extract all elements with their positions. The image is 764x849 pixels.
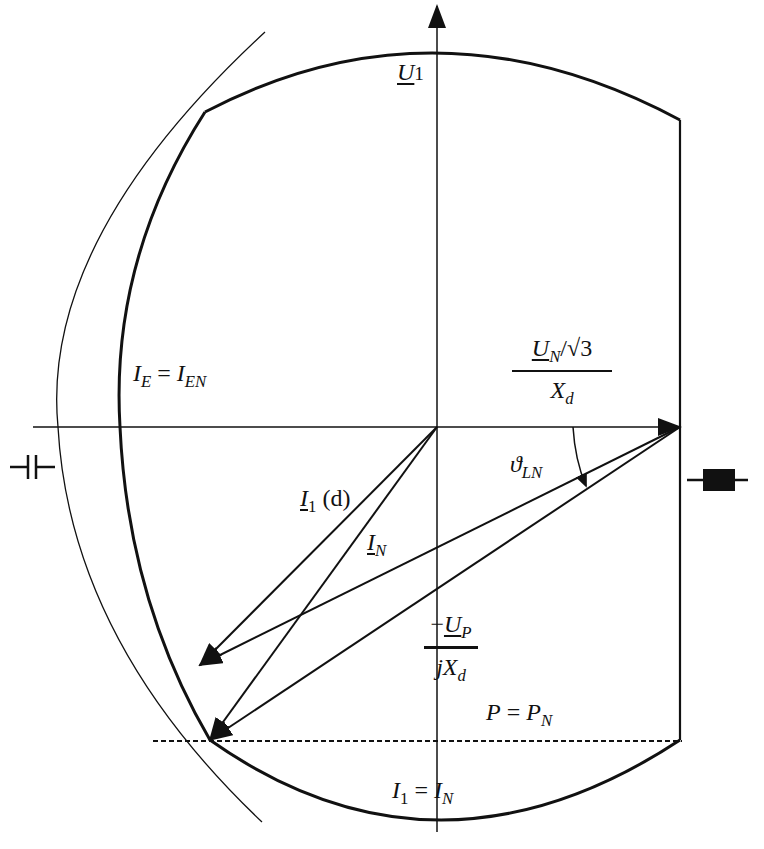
xd-denominator: Xd — [512, 372, 612, 408]
ien-sub: EN — [185, 372, 206, 391]
un-sub: N — [549, 347, 560, 366]
un-numerator: UN/√3 — [512, 336, 612, 372]
i1d-label: I1 (d) — [300, 486, 350, 516]
up-sub: P — [461, 623, 471, 642]
pn-sub: N — [541, 711, 552, 730]
xd-sub: d — [565, 389, 573, 408]
up-prefix: − — [430, 611, 444, 637]
excitation-limit-arc — [119, 112, 210, 740]
up-numerator: −UP — [424, 612, 478, 649]
rated-current-label: I1 = IN — [392, 778, 453, 808]
excitation-current-label: IE = IEN — [133, 361, 206, 391]
i1d-rest: (d) — [316, 485, 350, 511]
jxd-main: X — [443, 654, 458, 680]
jxd-prefix: j — [436, 654, 443, 680]
un-over-xd-fraction: UN/√3 Xd — [512, 336, 612, 407]
ie-sub: E — [141, 372, 151, 391]
un-rest: /√3 — [560, 335, 592, 361]
theta-main: ϑ — [510, 451, 522, 477]
in-sub: N — [375, 541, 386, 560]
u1-main: U — [397, 59, 414, 85]
in-label: IN — [367, 530, 386, 560]
u1-label: U1 — [397, 60, 424, 84]
ie-main: I — [133, 360, 141, 386]
ien-main: I — [177, 360, 185, 386]
capacitor-icon — [10, 455, 55, 479]
u1-sub: 1 — [414, 63, 424, 84]
load-angle-label: ϑLN — [510, 452, 542, 482]
i1d-main: I — [300, 485, 308, 511]
top-limit-arc — [205, 53, 680, 120]
pn-main: P — [526, 699, 541, 725]
jxd-denominator: jXd — [424, 649, 478, 685]
xd-main: X — [550, 377, 565, 403]
in-main: I — [367, 529, 375, 555]
theta-sub: LN — [522, 463, 543, 482]
p-eq: = — [501, 699, 527, 725]
in2-main: I — [434, 777, 442, 803]
up-over-jxd-fraction: −UP jXd — [424, 612, 478, 684]
p-main: P — [486, 699, 501, 725]
up-main: U — [444, 611, 461, 637]
rated-power-label: P = PN — [486, 700, 552, 730]
un-main: U — [532, 335, 549, 361]
inductor-icon — [687, 469, 748, 491]
jxd-sub: d — [457, 666, 465, 685]
ie-eq: = — [151, 360, 177, 386]
in-vector — [210, 427, 437, 740]
i1-main: I — [392, 777, 400, 803]
i1d-vector — [200, 427, 437, 665]
in2-sub: N — [442, 789, 453, 808]
diagram-canvas — [0, 0, 764, 849]
i1-eq: = — [408, 777, 434, 803]
